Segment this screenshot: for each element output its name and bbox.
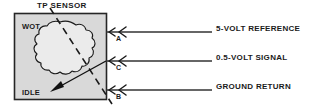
terminal-a-wire-label: 5-VOLT REFERENCE — [216, 24, 300, 33]
idle-position-label: IDLE — [22, 88, 40, 97]
terminal-c-label: C — [116, 64, 121, 71]
terminal-b-label: B — [116, 93, 121, 100]
wot-position-label: WOT — [22, 22, 40, 31]
terminal-c-wire-label: 0.5-VOLT SIGNAL — [216, 53, 287, 62]
tp-sensor-diagram: TP SENSOR WOT IDLE A C B 5-VOLT REFERENC… — [0, 0, 319, 112]
terminal-a-label: A — [116, 35, 121, 42]
terminal-b-wire-label: GROUND RETURN — [216, 82, 291, 91]
diagram-title: TP SENSOR — [37, 1, 87, 10]
